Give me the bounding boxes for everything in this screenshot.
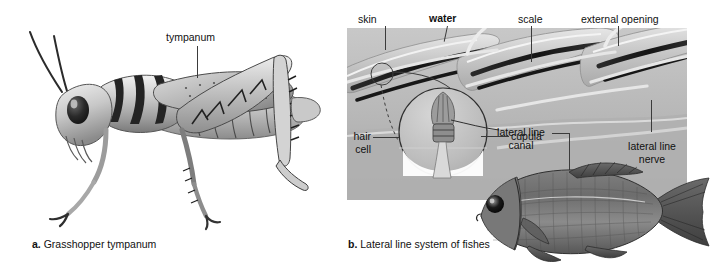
fish-illustration bbox=[465, 160, 715, 265]
label-nerve-line1: lateral line bbox=[628, 140, 676, 152]
grasshopper-antennae bbox=[30, 32, 68, 94]
grasshopper-eye bbox=[67, 96, 89, 124]
fish-eye bbox=[486, 195, 504, 213]
label-tympanum: tympanum bbox=[166, 31, 215, 43]
label-skin: skin bbox=[358, 13, 377, 25]
hair-cell-leader-line bbox=[373, 137, 399, 138]
abdomen-tip bbox=[291, 97, 320, 122]
panel-grasshopper: tympanum a. Grasshopper tympanum bbox=[0, 0, 345, 274]
tympanum-leader-line bbox=[197, 46, 198, 78]
scale-leader-line bbox=[531, 26, 532, 62]
label-water: water bbox=[429, 12, 456, 24]
grasshopper-hind-tarsus bbox=[276, 160, 308, 190]
middle-leg-tibia bbox=[194, 184, 206, 216]
front-leg-tibia bbox=[68, 182, 94, 214]
label-scale: scale bbox=[518, 13, 543, 25]
middle-leg-tarsus bbox=[206, 216, 220, 229]
fish-eye-highlight bbox=[490, 199, 495, 204]
external-opening-leader-line bbox=[618, 26, 619, 46]
lateral-line-nerve-leader-line bbox=[651, 100, 652, 132]
caption-text-b: Lateral line system of fishes bbox=[360, 238, 490, 250]
label-canal-line1: lateral line bbox=[497, 126, 545, 138]
label-canal-line2: canal bbox=[508, 139, 533, 151]
label-hair-cell-line1: hair bbox=[353, 130, 371, 142]
label-hair-cell: hair cell bbox=[341, 130, 371, 155]
eye-highlight bbox=[71, 100, 78, 109]
label-external-opening: external opening bbox=[581, 13, 659, 25]
caption-text-a: Grasshopper tympanum bbox=[44, 238, 157, 250]
front-leg-tarsus bbox=[50, 214, 68, 226]
label-hair-cell-line2: cell bbox=[355, 143, 371, 155]
grasshopper-hind-tibia bbox=[273, 55, 291, 166]
label-lateral-line-canal: lateral line canal bbox=[490, 126, 552, 151]
grasshopper-middle-leg bbox=[182, 130, 194, 184]
figure-root: tympanum a. Grasshopper tympanum bbox=[0, 0, 718, 274]
caption-letter-a: a. bbox=[32, 238, 41, 250]
hair-cell-body bbox=[433, 124, 454, 142]
caption-letter-b: b. bbox=[348, 238, 357, 250]
caption-panel-b: b. Lateral line system of fishes bbox=[348, 238, 490, 250]
fish-mouth bbox=[477, 214, 481, 221]
panel-lateral-line: skin water scale external opening hair c… bbox=[343, 0, 718, 274]
caption-panel-a: a. Grasshopper tympanum bbox=[32, 238, 156, 250]
skin-leader-line bbox=[385, 26, 386, 50]
grasshopper-illustration bbox=[10, 18, 330, 228]
lateral-line-canal-leader-elbow bbox=[552, 133, 570, 134]
